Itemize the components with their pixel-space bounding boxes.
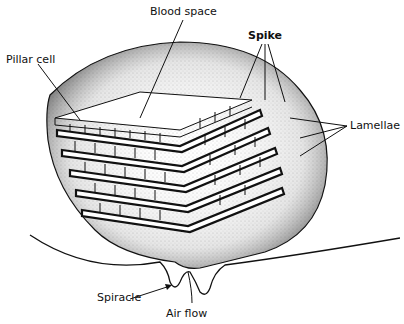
label-pillar-cell: Pillar cell — [6, 54, 55, 65]
label-blood-space: Blood space — [150, 6, 217, 17]
diagram-drawing — [0, 0, 404, 324]
label-spike: Spike — [248, 30, 282, 41]
label-lamellae: Lamellae — [350, 120, 400, 131]
book-lung-diagram: Blood space Pillar cell Spike Lamellae S… — [0, 0, 404, 324]
label-air-flow: Air flow — [166, 308, 207, 319]
spiracle-arrowhead — [165, 284, 172, 290]
label-spiracle: Spiracle — [97, 292, 141, 303]
air-flow-leader — [188, 272, 192, 303]
